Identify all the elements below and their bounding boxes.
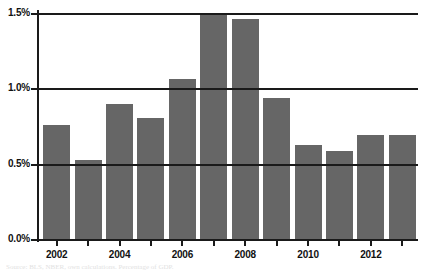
x-tick-mark <box>87 241 89 246</box>
gridline-1-0 <box>38 88 418 90</box>
x-tick-mark <box>401 241 403 246</box>
bar-2009 <box>263 98 290 240</box>
gridline-1-5 <box>38 13 418 15</box>
x-tick-mark <box>307 241 309 246</box>
x-tick-mark <box>213 241 215 246</box>
x-axis-label-2008: 2008 <box>234 249 255 260</box>
bar-2002 <box>43 125 70 240</box>
gridline-0-5 <box>38 164 418 166</box>
bar-2007 <box>200 14 227 240</box>
x-tick-mark <box>370 241 372 246</box>
bar-2003 <box>75 160 102 240</box>
x-tick-mark <box>338 241 340 246</box>
bar-2004 <box>106 104 133 240</box>
bar-2010 <box>295 145 322 240</box>
bar-2012 <box>357 135 384 240</box>
bar-chart-figure: 0.0%0.5%1.0%1.5% 20022004200620082010201… <box>0 0 422 270</box>
bar-2008 <box>232 19 259 240</box>
x-tick-mark <box>56 241 58 246</box>
x-tick-mark <box>150 241 152 246</box>
bar-2013 <box>389 135 416 240</box>
x-axis-label-2010: 2010 <box>297 249 318 260</box>
x-tick-mark <box>119 241 121 246</box>
x-axis-label-2006: 2006 <box>172 249 193 260</box>
x-axis-label-2002: 2002 <box>46 249 67 260</box>
x-axis-label-2012: 2012 <box>360 249 381 260</box>
x-tick-mark <box>244 241 246 246</box>
x-axis-label-2004: 2004 <box>109 249 130 260</box>
x-tick-mark <box>181 241 183 246</box>
x-axis-line <box>37 239 418 241</box>
source-note: Source: BLS, NBER, own calculations. Per… <box>6 263 173 270</box>
bars-layer <box>0 0 422 240</box>
bar-2005 <box>137 118 164 240</box>
x-tick-mark <box>276 241 278 246</box>
bar-2006 <box>169 79 196 240</box>
y-axis-line <box>37 10 39 242</box>
